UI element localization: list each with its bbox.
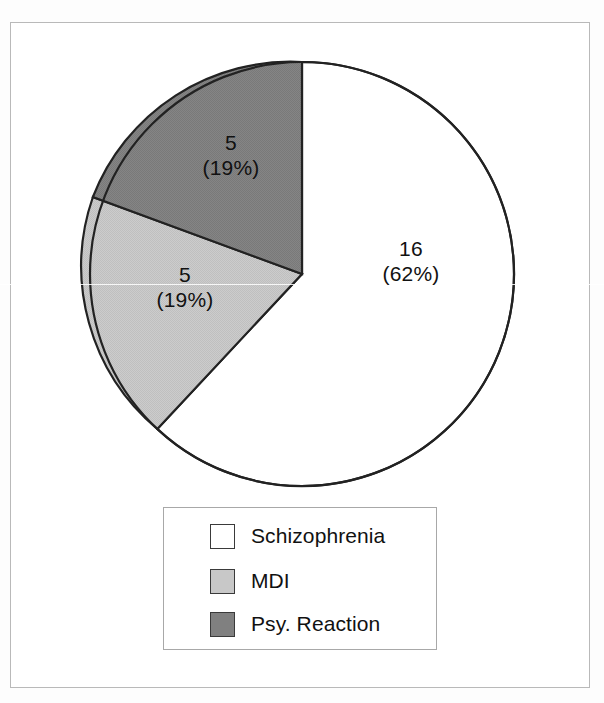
chart-legend: Schizophrenia MDI Psy. Reaction — [163, 507, 437, 650]
legend-swatch-schizophrenia — [210, 524, 235, 549]
legend-swatch-mdi — [210, 569, 235, 594]
slice-value-schizophrenia: 16 — [356, 236, 466, 261]
figure-container: 16 (62%) 5 (19%) 5 (19%) Schizophrenia M… — [0, 0, 604, 703]
legend-item-schizophrenia[interactable]: Schizophrenia — [210, 521, 385, 551]
slice-label-psy-reaction: 5 (19%) — [176, 130, 286, 180]
slice-percent-schizophrenia: (62%) — [356, 261, 466, 286]
slice-value-psy-reaction: 5 — [176, 130, 286, 155]
pie-chart: 16 (62%) 5 (19%) 5 (19%) Schizophrenia M… — [0, 0, 604, 703]
legend-item-mdi[interactable]: MDI — [210, 566, 290, 596]
slice-percent-mdi: (19%) — [130, 287, 240, 312]
legend-label-schizophrenia: Schizophrenia — [251, 524, 385, 548]
legend-label-mdi: MDI — [251, 569, 290, 593]
slice-label-mdi: 5 (19%) — [130, 262, 240, 312]
slice-value-mdi: 5 — [130, 262, 240, 287]
slice-percent-psy-reaction: (19%) — [176, 155, 286, 180]
legend-label-psy-reaction: Psy. Reaction — [251, 612, 380, 636]
slice-label-schizophrenia: 16 (62%) — [356, 236, 466, 286]
legend-swatch-psy-reaction — [210, 612, 235, 637]
legend-item-psy-reaction[interactable]: Psy. Reaction — [210, 609, 380, 639]
